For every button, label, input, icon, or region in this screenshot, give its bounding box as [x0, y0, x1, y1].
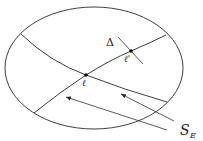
label-set-subscript-e: E — [189, 131, 196, 140]
label-set-s: S — [180, 122, 190, 138]
label-l-prime: ℓ' — [124, 54, 130, 64]
point-l-prime — [129, 49, 133, 53]
diagram-canvas: Δ ℓ ℓ' S E — [0, 0, 203, 141]
outer-ellipse — [5, 7, 183, 129]
arrow-se-lower — [66, 97, 167, 130]
curve-b — [34, 35, 166, 113]
label-l: ℓ — [82, 78, 86, 88]
curve-a — [21, 34, 167, 102]
label-delta: Δ — [106, 36, 114, 49]
point-l — [84, 73, 88, 77]
